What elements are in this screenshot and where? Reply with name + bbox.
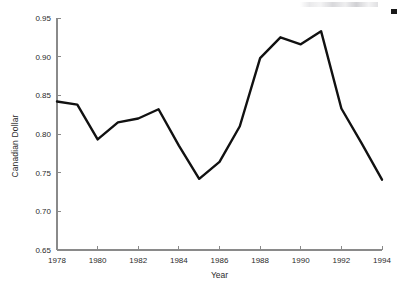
x-tick-label: 1980 xyxy=(89,256,107,265)
x-tick-label: 1982 xyxy=(129,256,147,265)
chart-container: Canadian Dollar 0.650.700.750.800.850.90… xyxy=(0,0,401,291)
x-tick-label: 1984 xyxy=(170,256,188,265)
y-tick-label: 0.65 xyxy=(35,246,51,255)
x-tick-label: 1986 xyxy=(211,256,229,265)
y-tick-label: 0.80 xyxy=(35,130,51,139)
y-tick-label: 0.75 xyxy=(35,169,51,178)
y-tick-label: 0.85 xyxy=(35,91,51,100)
x-tick-label: 1990 xyxy=(292,256,310,265)
x-tick-label: 1992 xyxy=(332,256,350,265)
x-axis-title: Year xyxy=(211,270,228,280)
x-tick-label: 1978 xyxy=(48,256,66,265)
x-tick-label: 1988 xyxy=(251,256,269,265)
data-series-line xyxy=(57,31,382,179)
y-tick-label: 0.70 xyxy=(35,207,51,216)
y-tick-label: 0.90 xyxy=(35,53,51,62)
y-tick-label: 0.95 xyxy=(35,14,51,23)
x-tick-label: 1994 xyxy=(373,256,391,265)
line-chart-plot: 0.650.700.750.800.850.900.95 19781980198… xyxy=(0,0,401,291)
x-tick-group: 197819801982198419861988199019921994 xyxy=(48,246,391,265)
